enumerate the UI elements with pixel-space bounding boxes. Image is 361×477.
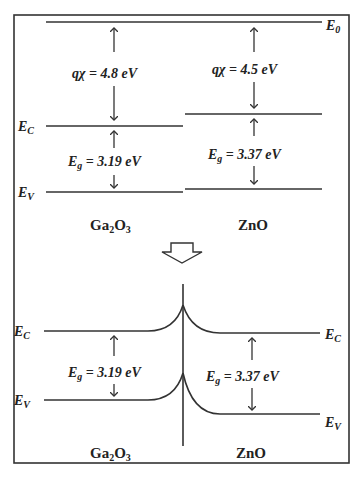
left-material-name: Ga2O3 [90, 217, 131, 235]
right-ev-label: EV [324, 415, 342, 432]
left-ec-label: EC [17, 119, 34, 136]
right-bandgap: Eg = 3.37 eV [207, 147, 283, 164]
left-material-name: Ga2O3 [90, 445, 131, 463]
down-arrow-icon [162, 243, 202, 263]
left-ec-label: EC [13, 324, 30, 341]
right-ec-label: EC [324, 327, 341, 344]
left-ev-label: EV [17, 185, 35, 202]
left-conduction-band-bent [44, 305, 183, 331]
vacuum-level-label: E0 [325, 18, 340, 35]
left-bandgap: Eg = 3.19 eV [67, 365, 143, 382]
left-bandgap: Eg = 3.19 eV [67, 154, 143, 171]
bottom-panel: EC EC EV EV Eg = 3.19 eV Eg = 3.37 eV Ga… [13, 284, 342, 463]
top-panel: E0 qχ = 4.8 eV qχ = 4.5 eV EC EV Eg = 3.… [17, 18, 340, 235]
right-bandgap: Eg = 3.37 eV [205, 369, 281, 386]
right-material-name: ZnO [238, 217, 268, 233]
left-electron-affinity: qχ = 4.8 eV [72, 66, 139, 81]
right-electron-affinity: qχ = 4.5 eV [212, 62, 279, 77]
figure-frame [14, 15, 349, 463]
band-diagram: E0 qχ = 4.8 eV qχ = 4.5 eV EC EV Eg = 3.… [0, 0, 361, 477]
right-material-name: ZnO [236, 445, 266, 461]
right-conduction-band-bent [183, 305, 320, 333]
left-ev-label: EV [13, 393, 31, 410]
